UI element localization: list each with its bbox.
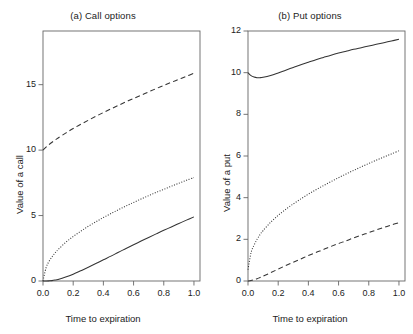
figure-canvas: (a) Call options Time to expiration Valu…	[0, 0, 413, 334]
plot-frame	[248, 31, 405, 281]
x-tick-label: 0.4	[294, 288, 322, 298]
x-tick-label: 0.6	[325, 288, 353, 298]
x-tick-label: 0.8	[355, 288, 383, 298]
y-tick-label: 15	[6, 79, 36, 89]
put-x-axis-label: Time to expiration	[207, 313, 413, 324]
y-tick-label: 0	[6, 275, 36, 285]
call-y-axis-label: Value of a call	[14, 155, 25, 214]
y-tick-label: 8	[211, 108, 241, 118]
x-tick-label: 0.2	[59, 288, 87, 298]
put-y-axis-label: Value of a put	[221, 154, 232, 212]
y-tick-label: 5	[6, 210, 36, 220]
x-tick-label: 0.6	[120, 288, 148, 298]
series-curve-dashed	[248, 223, 399, 281]
y-tick-label: 6	[211, 150, 241, 160]
x-tick-label: 0.8	[150, 288, 178, 298]
y-tick-label: 2	[211, 233, 241, 243]
call-x-axis-label: Time to expiration	[0, 313, 206, 324]
panel-put-options: (b) Put options Time to expiration Value…	[207, 0, 413, 334]
panel-call-options: (a) Call options Time to expiration Valu…	[0, 0, 206, 334]
x-tick-label: 0.0	[29, 288, 57, 298]
x-tick-label: 0.0	[234, 288, 262, 298]
y-tick-label: 10	[6, 144, 36, 154]
series-curve-solid	[43, 217, 194, 281]
series-curve-solid	[248, 39, 399, 77]
y-tick-label: 12	[211, 25, 241, 35]
series-curve-dashed	[43, 73, 194, 150]
x-tick-label: 0.2	[264, 288, 292, 298]
y-tick-label: 4	[211, 192, 241, 202]
y-tick-label: 10	[211, 67, 241, 77]
plot-frame	[43, 31, 200, 281]
y-tick-label: 0	[211, 275, 241, 285]
x-tick-label: 0.4	[89, 288, 117, 298]
x-tick-label: 1.0	[385, 288, 413, 298]
x-tick-label: 1.0	[180, 288, 208, 298]
series-curve-dotted	[248, 151, 399, 270]
series-curve-dotted	[43, 178, 194, 281]
